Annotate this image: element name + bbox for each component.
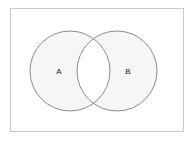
venn-label-a: A (56, 67, 62, 76)
venn-diagram-figure: A B (0, 0, 194, 143)
venn-label-b: B (125, 67, 130, 76)
venn-diagram-canvas: A B (0, 0, 194, 143)
